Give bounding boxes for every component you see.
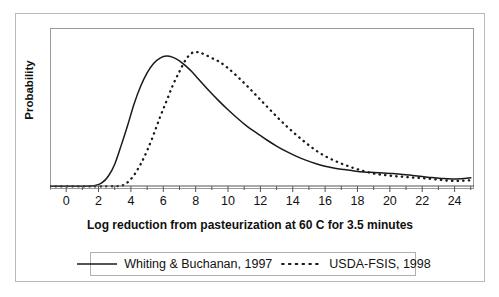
x-tick-label-2: 2 [84, 194, 114, 208]
plot-curves [50, 28, 474, 189]
legend-label-usda-fsis: USDA-FSIS, 1998 [329, 257, 430, 271]
legend-dotted-line-swatch [280, 259, 324, 269]
x-axis-title: Log reduction from pasteurization at 60 … [15, 218, 485, 232]
chart-figure: Probability 024681012141618202224 Log re… [0, 0, 499, 297]
legend-label-whiting-buchanan: Whiting & Buchanan, 1997 [124, 257, 272, 271]
x-axis-tick-labels: 024681012141618202224 [50, 194, 474, 210]
x-tick-label-6: 6 [148, 194, 178, 208]
series-curve-0 [50, 56, 471, 186]
x-tick-label-4: 4 [116, 194, 146, 208]
x-tick-label-12: 12 [245, 194, 275, 208]
x-tick-label-22: 22 [407, 194, 437, 208]
x-tick-label-24: 24 [440, 194, 470, 208]
x-tick-label-14: 14 [278, 194, 308, 208]
y-axis-label: Probability [23, 40, 35, 140]
x-tick-label-10: 10 [213, 194, 243, 208]
x-tick-label-0: 0 [51, 194, 81, 208]
x-tick-label-16: 16 [310, 194, 340, 208]
x-tick-label-20: 20 [375, 194, 405, 208]
legend-item-usda-fsis: USDA-FSIS, 1998 [280, 257, 430, 271]
chart-legend: Whiting & Buchanan, 1997 USDA-FSIS, 1998 [90, 252, 416, 276]
x-tick-label-8: 8 [181, 194, 211, 208]
legend-solid-line-swatch [75, 259, 119, 269]
legend-item-whiting-buchanan: Whiting & Buchanan, 1997 [75, 257, 272, 271]
x-tick-label-18: 18 [342, 194, 372, 208]
